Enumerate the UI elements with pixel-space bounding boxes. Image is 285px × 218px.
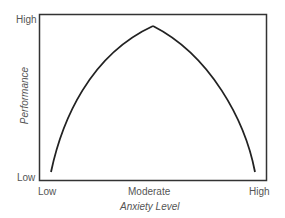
curve-rising [51, 26, 153, 172]
plot-frame [40, 15, 267, 181]
curve-falling [153, 26, 255, 172]
x-tick-moderate: Moderate [128, 186, 170, 197]
x-tick-high: High [249, 186, 270, 197]
y-tick-high: High [16, 14, 37, 25]
y-axis-label: Performance [19, 64, 30, 128]
x-axis-label: Anxiety Level [120, 201, 179, 212]
x-tick-low: Low [38, 186, 56, 197]
y-tick-low: Low [17, 172, 35, 183]
